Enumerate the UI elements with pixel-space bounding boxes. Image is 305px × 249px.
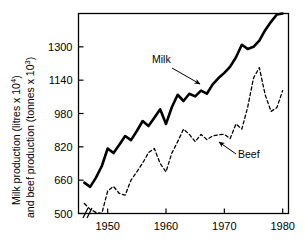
annotation-label-milk: Milk	[152, 53, 171, 65]
y-tick-label-500: 500	[54, 208, 72, 220]
chart-background	[0, 0, 305, 249]
y-axis-title-line-1: Milk production (litres x 104)	[9, 75, 22, 205]
x-tick-label-1980: 1980	[270, 220, 294, 232]
y-axis-title-line-2: and beef production (tonnes x 103)	[23, 57, 36, 218]
x-tick-label-1970: 1970	[212, 220, 236, 232]
annotation-label-beef: Beef	[238, 148, 260, 160]
chart-figure: 50066082098011401300 1950196019701980 Mi…	[0, 0, 305, 249]
x-tick-label-1950: 1950	[95, 220, 119, 232]
production-line-chart: 50066082098011401300 1950196019701980 Mi…	[0, 0, 305, 249]
x-tick-label-1960: 1960	[154, 220, 178, 232]
y-tick-label-660: 660	[54, 174, 72, 186]
y-tick-label-1300: 1300	[48, 41, 72, 53]
y-tick-label-820: 820	[54, 141, 72, 153]
y-tick-label-980: 980	[54, 108, 72, 120]
y-tick-label-1140: 1140	[49, 74, 73, 86]
